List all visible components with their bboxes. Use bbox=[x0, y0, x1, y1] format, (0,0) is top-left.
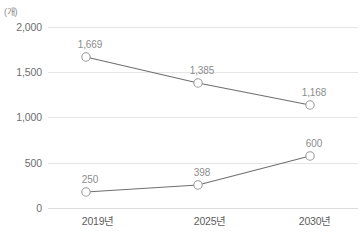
upper-series-value-2030: 1,168 bbox=[302, 87, 327, 98]
x-tick-label-2019: 2019년 bbox=[82, 213, 114, 228]
lower-series-marker-2025 bbox=[194, 181, 202, 189]
lower-series-value-2030: 600 bbox=[306, 138, 322, 149]
upper-series-marker-2025 bbox=[194, 79, 202, 87]
plot-area: 2,000 1,500 1,000 500 0 1,669 1,385 1,16… bbox=[0, 0, 362, 232]
upper-series-marker-2019 bbox=[82, 53, 90, 61]
x-tick-label-2025: 2025년 bbox=[194, 213, 226, 228]
lower-series-marker-2019 bbox=[82, 188, 90, 196]
lower-series-marker-2030 bbox=[306, 152, 314, 160]
upper-series-value-2019: 1,669 bbox=[78, 39, 103, 50]
series-lines bbox=[0, 0, 362, 232]
upper-series-value-2025: 1,385 bbox=[190, 65, 215, 76]
lower-series-value-2025: 398 bbox=[194, 167, 210, 178]
x-tick-label-2030: 2030년 bbox=[299, 213, 331, 228]
lower-series-value-2019: 250 bbox=[82, 174, 98, 185]
line-chart: (개) 2,000 1,500 1,000 500 0 1,669 1,385 … bbox=[0, 0, 362, 232]
upper-series-marker-2030 bbox=[306, 101, 314, 109]
